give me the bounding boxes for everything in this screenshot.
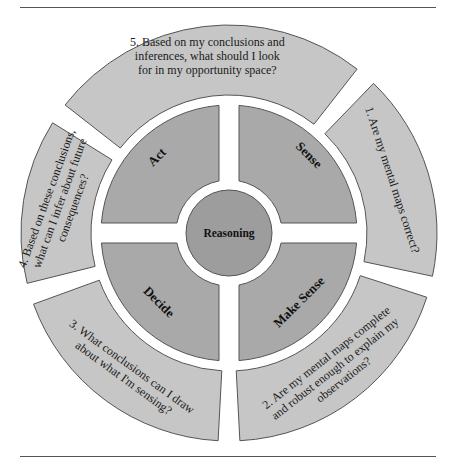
reasoning-label: Reasoning bbox=[203, 227, 254, 240]
question-text-5: 5. Based on my conclusions andinferences… bbox=[130, 35, 285, 77]
question-line: inferences, what should I look bbox=[135, 49, 280, 63]
question-segment-4: 4. Based on these conclusions,what can I… bbox=[15, 123, 112, 284]
question-line: for in my opportunity space? bbox=[138, 63, 277, 77]
question-line: 5. Based on my conclusions and bbox=[130, 35, 285, 49]
reasoning-cycle-diagram: 5. Based on my conclusions andinferences… bbox=[0, 0, 458, 470]
reasoning-core: Reasoning bbox=[186, 190, 272, 276]
